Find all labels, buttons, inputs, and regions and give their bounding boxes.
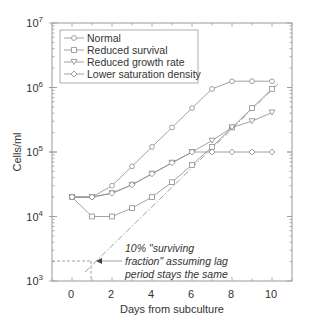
series-layer [69, 79, 275, 219]
x-tick-label: 2 [108, 288, 114, 300]
x-axis-label: Days from subculture [120, 303, 224, 315]
x-tick-label: 4 [148, 288, 154, 300]
y-tick-label-1e7: 107 [26, 15, 43, 29]
diamond-marker-icon [249, 149, 255, 155]
square-marker-icon [190, 163, 195, 168]
svg-text:Normal: Normal [87, 32, 121, 44]
circle-marker-icon [72, 36, 77, 41]
circle-marker-icon [190, 106, 195, 111]
square-marker-icon [250, 106, 255, 111]
annotation-text: 10% "surviving fraction" assuming lag pe… [124, 242, 228, 280]
triangle-down-marker-icon [269, 110, 275, 115]
diamond-marker-icon [229, 149, 235, 155]
circle-marker-icon [130, 164, 135, 169]
square-marker-icon [90, 214, 95, 219]
square-marker-icon [150, 195, 155, 200]
diamond-marker-icon [269, 149, 275, 155]
y-tick-label-1e6: 106 [26, 80, 43, 94]
square-marker-icon [130, 206, 135, 211]
square-marker-icon [110, 214, 115, 219]
circle-marker-icon [270, 79, 275, 84]
circle-marker-icon [170, 125, 175, 130]
y-tick-label-1e4: 104 [26, 209, 43, 223]
square-marker-icon [170, 180, 175, 185]
x-tick-label: 10 [265, 288, 277, 300]
x-tick-labels: 0 2 4 6 8 10 [68, 288, 277, 300]
triangle-down-marker-icon [249, 119, 255, 124]
circle-marker-icon [150, 144, 155, 149]
arrowhead-icon [96, 258, 102, 264]
svg-text:Reduced growth rate: Reduced growth rate [87, 56, 185, 68]
circle-marker-icon [230, 79, 235, 84]
y-tick-label-1e3: 103 [26, 273, 43, 287]
series-reduced-survival [70, 87, 275, 219]
circle-marker-icon [250, 79, 255, 84]
circle-marker-icon [210, 87, 215, 92]
svg-text:10% "surviving: 10% "surviving [125, 242, 194, 254]
svg-text:Lower saturation density: Lower saturation density [87, 68, 202, 80]
square-marker-icon [72, 48, 77, 53]
legend: Normal Reduced survival Reduced growth r… [60, 30, 202, 83]
y-tick-label-1e5: 105 [26, 144, 43, 158]
circle-marker-icon [110, 183, 115, 188]
y-axis-label: Cells/ml [11, 132, 23, 171]
svg-text:Reduced survival: Reduced survival [87, 44, 168, 56]
chart-container: 107 106 105 104 103 0 2 4 6 8 10 Days fr… [0, 0, 311, 320]
series-reduced-growth-rate [69, 110, 275, 200]
square-marker-icon [270, 87, 275, 92]
x-tick-label: 8 [228, 288, 234, 300]
svg-text:fraction" assuming lag: fraction" assuming lag [125, 255, 228, 267]
y-tick-labels: 107 106 105 104 103 [26, 15, 43, 287]
x-tick-label: 0 [68, 288, 74, 300]
x-tick-label: 6 [188, 288, 194, 300]
triangle-down-marker-icon [209, 138, 215, 143]
svg-text:period stays the same: period stays the same [124, 268, 228, 280]
